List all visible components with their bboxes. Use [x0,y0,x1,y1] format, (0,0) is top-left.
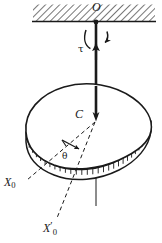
label-torque-tau: τ [78,44,84,54]
label-center-of-mass-C: C [75,108,83,120]
label-axis-x0-prime: X′0 [43,220,57,237]
label-support-point-O: O [92,1,101,13]
label-axis-x0-subscript: 0 [11,180,15,190]
figure-canvas [0,0,162,243]
label-axis-x0-prime-subscript: 0 [53,227,57,237]
label-angle-theta: θ [62,152,67,161]
physics-figure: O τ C θ X0 X′0 [0,0,162,243]
label-axis-x0: X0 [4,176,16,190]
support-point-marker [94,20,99,25]
torque-arc-right [105,32,108,43]
torque-arc-left [85,30,91,49]
